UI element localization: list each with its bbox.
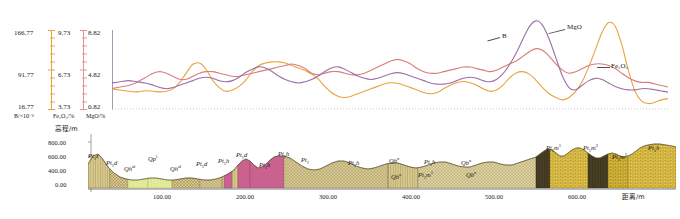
axis-fe2o3-tick-bottom: 3.73 — [58, 104, 70, 111]
curve-label-mgo: MgO — [567, 24, 582, 31]
axis-b-tick-top: 166.77 — [14, 30, 33, 37]
axis-fe2o3-line — [80, 30, 88, 110]
elevation-tick-0: 0.00 — [55, 182, 66, 189]
curve-B — [112, 22, 668, 103]
unit-label-9: Pt1h — [278, 151, 289, 160]
elevation-axis-title: 高程/m — [55, 126, 78, 133]
unit-label-1: Pt1d — [106, 160, 117, 169]
unit-label-19: Pt1m2 — [583, 144, 598, 154]
unit-label-21: Pt1h — [648, 145, 659, 154]
unit-label-18: Pt1m1 — [546, 144, 561, 154]
figure-container: 166.77 91.77 16.77 B/×10⁻⁶ 9.73 6.73 3.7 — [0, 0, 680, 219]
distance-tick-500: 500.00 — [485, 194, 503, 201]
unit-label-10: Pt1 — [301, 157, 309, 166]
elevation-tick-400: 400.00 — [48, 168, 66, 175]
unit-label-16: Pt1m1 — [418, 171, 433, 181]
elevation-tick-800: 800.00 — [48, 140, 66, 147]
distance-tick-200: 200.00 — [236, 194, 254, 201]
curve-label-fe2o3: Fe₂O₃ — [611, 63, 628, 70]
section-band — [148, 178, 172, 188]
cross-section-drawing — [88, 134, 676, 190]
curve-label-b: B — [502, 33, 507, 40]
section-band — [536, 149, 550, 188]
leader-fe2o3 — [597, 67, 610, 68]
axis-mgo-tick-bottom: 0.82 — [88, 104, 100, 111]
section-band — [200, 177, 222, 188]
unit-label-3: Qpl — [148, 155, 157, 163]
distance-axis-title: 距离/m — [622, 194, 645, 201]
unit-label-0: Pt1z — [88, 153, 99, 162]
unit-label-4: Qhal — [170, 165, 181, 173]
axis-b-tick-bottom: 16.77 — [18, 104, 34, 111]
section-band — [284, 156, 388, 188]
axis-b-tick-mid: 91.77 — [18, 72, 34, 79]
unit-label-20: Pt1m1 — [612, 153, 627, 163]
axis-mgo-tick-top: 8.82 — [88, 30, 100, 37]
profile-baseline — [112, 108, 668, 111]
geochemical-curves — [112, 10, 668, 110]
distance-tick-100: 100.00 — [153, 194, 171, 201]
unit-label-15: Qbn — [391, 173, 401, 181]
unit-label-14: Qbn — [461, 159, 471, 167]
geological-cross-section-panel: 高程/m 800.00 600.00 400.00 0.00 100.00 20… — [0, 120, 680, 219]
distance-tick-300: 300.00 — [319, 194, 337, 201]
unit-label-11: Pt1h — [348, 160, 359, 169]
unit-label-13: Pt1h — [424, 159, 435, 168]
unit-label-6: Pt1h — [218, 158, 229, 167]
section-baseline — [88, 188, 676, 191]
axis-fe2o3-tick-top: 9.73 — [58, 30, 70, 37]
unit-label-5: Pt1d — [196, 161, 207, 170]
elevation-tick-600: 600.00 — [48, 154, 66, 161]
curve-MgO — [112, 21, 668, 92]
axis-fe2o3-tick-mid: 6.73 — [58, 72, 70, 79]
unit-label-12: Qbn — [389, 157, 399, 165]
unit-label-2: Qhal — [124, 165, 135, 173]
axis-fe2o3-unit-label: Fe₂O₃/% — [53, 113, 74, 119]
axis-mgo-tick-mid: 4.82 — [88, 72, 100, 79]
geochemical-profile-panel: 166.77 91.77 16.77 B/×10⁻⁶ 9.73 6.73 3.7 — [0, 0, 680, 120]
unit-label-8: Pt1h — [259, 162, 270, 171]
section-band — [418, 157, 536, 188]
axis-mgo-unit-label: MgO/% — [86, 113, 105, 119]
unit-label-7: Pt1d — [236, 152, 247, 161]
axis-b-unit-label: B/×10⁻⁶ — [14, 113, 34, 119]
distance-tick-600: 600.00 — [568, 194, 586, 201]
distance-tick-400: 400.00 — [402, 194, 420, 201]
axis-b-line — [48, 30, 56, 110]
unit-label-17: Qbn — [466, 171, 476, 179]
